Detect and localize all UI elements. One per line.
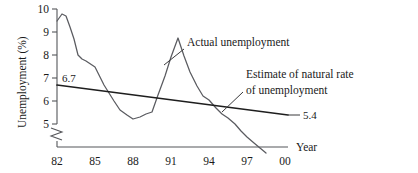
x-tick-label-91: 91 bbox=[165, 155, 177, 167]
series-actual-unemployment bbox=[57, 14, 266, 153]
x-tick-label-85: 85 bbox=[89, 155, 101, 167]
y-tick-label-8: 8 bbox=[43, 49, 49, 61]
point-label-start: 6.7 bbox=[62, 72, 76, 84]
y-tick-label-7: 7 bbox=[43, 72, 49, 84]
annotation-natural-rate-line2: of unemployment bbox=[246, 84, 328, 97]
unemployment-chart: Unemployment (%) 10 9 8 7 6 5 82 85 88 9… bbox=[0, 0, 418, 173]
point-label-end: 5.4 bbox=[303, 109, 317, 121]
x-tick-label-88: 88 bbox=[127, 155, 139, 167]
y-tick-label-5: 5 bbox=[43, 118, 49, 130]
x-tick-label-97: 97 bbox=[241, 155, 253, 167]
annotation-actual-leader bbox=[164, 49, 184, 65]
y-tick-label-6: 6 bbox=[43, 95, 49, 107]
y-tick-marks bbox=[52, 9, 57, 124]
y-tick-label-9: 9 bbox=[43, 26, 49, 38]
y-axis-break-icon bbox=[51, 128, 62, 140]
x-tick-label-82: 82 bbox=[51, 155, 63, 167]
x-tick-label-94: 94 bbox=[203, 155, 215, 167]
annotation-natural-rate-line1: Estimate of natural rate bbox=[246, 68, 354, 80]
annotation-actual-unemployment: Actual unemployment bbox=[187, 36, 290, 49]
y-tick-label-10: 10 bbox=[38, 3, 50, 15]
x-axis-title: Year bbox=[296, 141, 317, 153]
x-tick-label-00: 00 bbox=[279, 155, 291, 167]
y-axis-title: Unemployment (%) bbox=[16, 36, 29, 128]
